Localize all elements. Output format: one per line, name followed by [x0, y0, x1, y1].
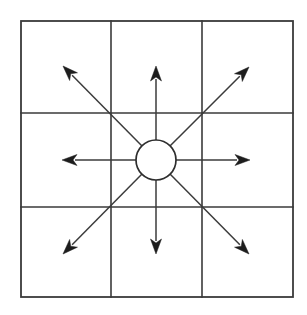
radial-arrows-diagram — [0, 0, 307, 315]
diagram-canvas — [0, 0, 307, 315]
center-circle — [136, 140, 176, 180]
